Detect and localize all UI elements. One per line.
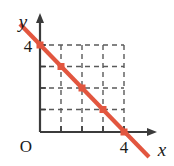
data-point-1-3 — [58, 63, 65, 70]
y-tick-label-4: 4 — [24, 37, 33, 56]
y-axis-label: y — [17, 11, 28, 32]
x-axis-arrowhead — [147, 128, 157, 136]
graph-canvas: y x 4 4 O — [0, 0, 174, 166]
data-point-3-1 — [100, 106, 107, 113]
x-tick-label-4: 4 — [120, 138, 129, 157]
data-point-4-0 — [121, 129, 128, 136]
y-axis-arrowhead — [36, 13, 44, 23]
data-point-2-2 — [79, 85, 86, 92]
data-point-0-4 — [37, 42, 44, 49]
coordinate-graph-figure: y x 4 4 O — [0, 0, 174, 166]
x-axis — [40, 128, 157, 136]
origin-label: O — [20, 137, 32, 156]
y-axis — [36, 13, 44, 132]
x-axis-label: x — [157, 139, 167, 160]
